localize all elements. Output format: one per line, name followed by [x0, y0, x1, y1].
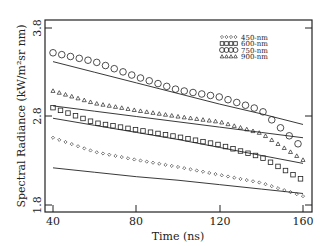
- legend: 450-nm600-nm750-nm900-nm: [220, 34, 269, 62]
- y-tick-3-8: 3.8: [31, 19, 44, 37]
- x-axis-label: Time (ns): [152, 230, 205, 243]
- y-tick-2-8: 2.8: [31, 107, 44, 125]
- x-tick-40: 40: [46, 215, 60, 228]
- plot-area: [50, 49, 305, 197]
- series-450-nm: [51, 136, 304, 198]
- x-tick-120: 120: [210, 215, 231, 228]
- x-tick-80: 80: [129, 215, 143, 228]
- x-tick-160: 160: [293, 215, 314, 228]
- y-axis-label: Spectral Radiance (kW/m²sr nm): [15, 25, 28, 208]
- spectral-radiance-chart: 450-nm600-nm750-nm900-nm 40 80 120 160 T…: [0, 0, 327, 246]
- legend-label-900-nm: 900-nm: [241, 53, 268, 61]
- y-tick-1-8: 1.8: [31, 196, 44, 214]
